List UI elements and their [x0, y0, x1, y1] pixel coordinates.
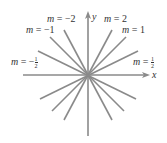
label-m-neg2: m = −2	[47, 14, 76, 24]
line-slope-1	[52, 37, 126, 111]
label-m-1: m = 1	[122, 25, 145, 35]
label-m-half: m = 12	[133, 56, 154, 69]
label-m-neg-half: m = −12	[11, 56, 38, 69]
label-m-2: m = 2	[104, 14, 127, 24]
y-axis-label: y	[92, 12, 96, 22]
line-slope-neg1	[50, 37, 124, 111]
label-m-neg1: m = −1	[26, 25, 55, 35]
slope-diagram	[0, 0, 167, 143]
x-axis-label: x	[152, 70, 156, 80]
